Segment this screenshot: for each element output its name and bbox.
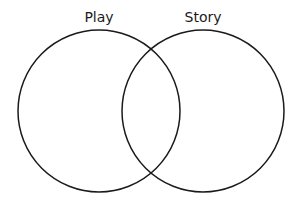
play-label: Play: [84, 8, 113, 26]
venn-circles: [0, 0, 296, 205]
story-label: Story: [185, 8, 222, 26]
story-circle: [122, 30, 284, 192]
play-circle: [18, 30, 180, 192]
